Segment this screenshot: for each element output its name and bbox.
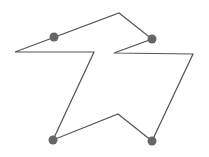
control-point-dot <box>49 136 58 145</box>
control-points <box>49 33 157 146</box>
control-point-dot <box>148 35 157 44</box>
closed-polygon-outline <box>15 13 193 141</box>
control-point-dot <box>148 137 157 146</box>
polygon-diagram <box>0 0 209 157</box>
control-point-dot <box>50 33 59 42</box>
